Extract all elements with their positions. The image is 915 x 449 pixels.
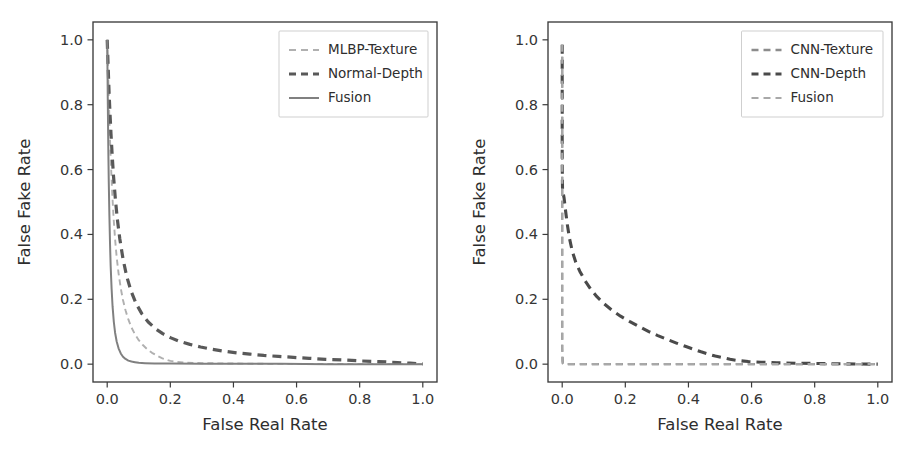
- legend-label: Fusion: [791, 89, 834, 105]
- x-axis: 0.00.20.40.60.81.0: [96, 382, 435, 407]
- y-axis-title: False Fake Rate: [15, 139, 34, 266]
- y-axis: 0.00.20.40.60.81.0: [515, 32, 548, 372]
- x-tick-label: 0.0: [96, 391, 119, 407]
- x-tick-label: 0.2: [614, 391, 637, 407]
- legend-label: MLBP-Texture: [328, 41, 417, 57]
- legend-label: Fusion: [328, 89, 371, 105]
- x-tick-label: 0.4: [677, 391, 700, 407]
- x-tick-label: 0.6: [285, 391, 308, 407]
- y-tick-label: 0.6: [60, 162, 83, 178]
- legend-label: Normal-Depth: [328, 65, 423, 81]
- x-tick-label: 0.0: [551, 391, 574, 407]
- figure-canvas: 0.00.20.40.60.81.00.00.20.40.60.81.0Fals…: [0, 0, 915, 449]
- y-tick-label: 0.0: [60, 356, 83, 372]
- x-tick-label: 1.0: [411, 391, 434, 407]
- x-tick-label: 0.2: [159, 391, 182, 407]
- x-axis: 0.00.20.40.60.81.0: [551, 382, 890, 407]
- y-tick-label: 0.8: [60, 97, 83, 113]
- x-axis-title: False Real Rate: [657, 415, 782, 434]
- legend: CNN-TextureCNN-DepthFusion: [742, 31, 884, 117]
- y-axis-title: False Fake Rate: [470, 139, 489, 266]
- legend: MLBP-TextureNormal-DepthFusion: [279, 31, 428, 117]
- y-axis: 0.00.20.40.60.81.0: [60, 32, 93, 372]
- x-tick-label: 0.8: [348, 391, 371, 407]
- chart-panel-left: 0.00.20.40.60.81.00.00.20.40.60.81.0Fals…: [0, 0, 460, 449]
- y-tick-label: 0.4: [60, 226, 83, 242]
- y-tick-label: 1.0: [60, 32, 83, 48]
- det-curve-plot-left[interactable]: 0.00.20.40.60.81.00.00.20.40.60.81.0Fals…: [0, 0, 460, 449]
- y-tick-label: 0.2: [60, 291, 83, 307]
- y-tick-label: 0.0: [515, 356, 538, 372]
- det-curve-plot-right[interactable]: 0.00.20.40.60.81.00.00.20.40.60.81.0Fals…: [455, 0, 915, 449]
- y-tick-label: 0.8: [515, 97, 538, 113]
- legend-label: CNN-Depth: [791, 65, 867, 81]
- x-tick-label: 0.4: [222, 391, 245, 407]
- x-axis-title: False Real Rate: [202, 415, 327, 434]
- x-tick-label: 0.8: [803, 391, 826, 407]
- x-tick-label: 0.6: [740, 391, 763, 407]
- x-tick-label: 1.0: [866, 391, 889, 407]
- chart-panel-right: 0.00.20.40.60.81.00.00.20.40.60.81.0Fals…: [455, 0, 915, 449]
- legend-label: CNN-Texture: [791, 41, 874, 57]
- y-tick-label: 0.2: [515, 291, 538, 307]
- y-tick-label: 0.4: [515, 226, 538, 242]
- y-tick-label: 1.0: [515, 32, 538, 48]
- y-tick-label: 0.6: [515, 162, 538, 178]
